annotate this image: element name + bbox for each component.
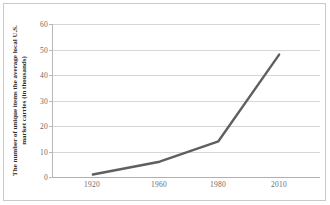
data-series-line xyxy=(53,24,320,177)
y-axis-title: The number of unique items the average l… xyxy=(10,24,30,177)
chart-screenshot: The number of unique items the average l… xyxy=(0,0,330,205)
x-tick-label-1920: 1920 xyxy=(84,180,100,189)
y-tick-label-60: 60 xyxy=(40,20,48,29)
y-tick-label-10: 10 xyxy=(40,147,48,156)
y-tick-label-0: 0 xyxy=(44,173,48,182)
y-tick-label-20: 20 xyxy=(40,122,48,131)
y-tick-label-50: 50 xyxy=(40,45,48,54)
gridline-0-baseline xyxy=(53,177,320,178)
figure-frame: The number of unique items the average l… xyxy=(3,3,326,201)
x-tick-label-2010: 2010 xyxy=(271,180,287,189)
y-tick-label-40: 40 xyxy=(40,71,48,80)
plot-area xyxy=(52,24,320,177)
x-tick-label-1960: 1960 xyxy=(151,180,167,189)
y-tick-label-30: 30 xyxy=(40,96,48,105)
y-axis-tick-labels: 0 10 20 30 40 50 60 xyxy=(28,24,48,177)
x-tick-label-1980: 1980 xyxy=(210,180,226,189)
y-axis-title-text: The number of unique items the average l… xyxy=(11,24,30,177)
y-tick-mark-0 xyxy=(49,177,53,178)
